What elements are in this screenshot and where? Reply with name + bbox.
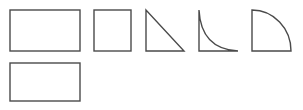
right-triangle-shape xyxy=(146,10,184,51)
rectangle-shape-1 xyxy=(10,10,80,51)
rectangle-shape-2 xyxy=(10,63,80,101)
square-shape xyxy=(94,10,131,51)
quarter-circle-shape xyxy=(252,10,291,51)
shapes-canvas xyxy=(0,0,303,110)
concave-curve-shape xyxy=(199,10,238,51)
